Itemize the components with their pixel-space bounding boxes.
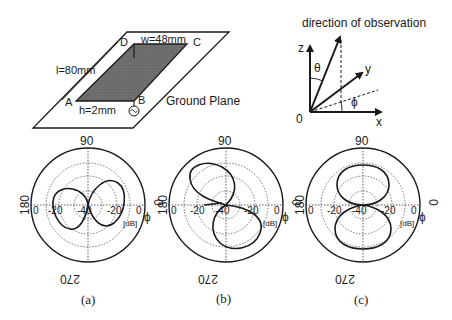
angle-label-180: 180 xyxy=(156,195,170,215)
phi-label: ϕ xyxy=(282,210,289,224)
projection-line-horizontal xyxy=(310,90,378,112)
theta-arc xyxy=(310,78,323,81)
tick-label-minus20-right: -20 xyxy=(244,205,259,216)
tick-label-0-left: 0 xyxy=(33,205,39,216)
figure-canvas: D C A B w=48mm l=80mm h=2mm Ground Plane… xyxy=(0,0,452,320)
tick-label-minus40: -40 xyxy=(352,205,367,216)
tick-label-0-right: 0 xyxy=(274,205,280,216)
angle-label-270: 270 xyxy=(335,272,355,286)
tick-label-minus40: -40 xyxy=(77,205,92,216)
tick-label-minus20-right: -20 xyxy=(381,205,396,216)
polar-plot-a: 90 270 180 0 -20 -40 -20 0 [dB] 0 ϕ xyxy=(18,134,165,286)
observation-title: direction of observation xyxy=(302,16,426,30)
x-axis-label: x xyxy=(376,115,382,129)
corner-label-a: A xyxy=(65,96,73,108)
phi-label: ϕ xyxy=(144,210,151,224)
width-label: w=48mm xyxy=(140,33,186,45)
origin-label: 0 xyxy=(296,112,303,126)
theta-label: θ xyxy=(314,61,321,75)
tick-label-minus40: -40 xyxy=(215,205,230,216)
tick-label-0-left: 0 xyxy=(171,205,177,216)
polar-plot-c: 90 270 180 0 -20 -40 -20 0 [dB] 0 ϕ xyxy=(293,134,440,286)
tick-label-0-right: 0 xyxy=(136,205,142,216)
corner-label-b: B xyxy=(138,94,145,106)
tick-label-minus20-left: -20 xyxy=(190,205,205,216)
y-axis-label: y xyxy=(365,62,371,76)
angle-label-90: 90 xyxy=(218,134,232,148)
height-label: h=2mm xyxy=(79,104,116,116)
tick-label-0-left: 0 xyxy=(308,205,314,216)
coordinate-diagram: direction of observation z x y 0 θ ϕ xyxy=(296,16,426,129)
z-axis-label: z xyxy=(298,41,304,55)
caption-a: (a) xyxy=(81,292,95,307)
angle-label-180: 180 xyxy=(293,195,307,215)
unit-label: [dB] xyxy=(400,219,414,228)
tick-label-minus20-left: -20 xyxy=(48,205,63,216)
unit-label: [dB] xyxy=(263,219,277,228)
phi-label: ϕ xyxy=(351,95,358,109)
angle-label-0: 0 xyxy=(426,199,440,206)
angle-label-270: 270 xyxy=(60,272,80,286)
tick-label-0-right: 0 xyxy=(411,205,417,216)
unit-label: [dB] xyxy=(123,219,137,228)
phi-arc xyxy=(341,102,342,112)
tick-label-minus20-left: -20 xyxy=(327,205,342,216)
length-label: l=80mm xyxy=(56,64,95,76)
corner-label-d: D xyxy=(120,36,128,48)
corner-label-c: C xyxy=(193,36,201,48)
polar-plot-b: 90 270 180 0 -20 -40 -20 0 [dB] 0 ϕ xyxy=(156,134,303,286)
angle-label-90: 90 xyxy=(80,134,94,148)
angle-label-270: 270 xyxy=(198,272,218,286)
tick-label-minus20-right: -20 xyxy=(107,205,122,216)
angle-label-90: 90 xyxy=(355,134,369,148)
angle-label-180: 180 xyxy=(18,195,32,215)
antenna-diagram: D C A B w=48mm l=80mm h=2mm Ground Plane xyxy=(33,32,240,128)
ground-plane-label: Ground Plane xyxy=(166,94,240,108)
phi-label: ϕ xyxy=(419,210,426,224)
ac-source-icon xyxy=(129,106,139,116)
caption-c: (c) xyxy=(354,292,368,307)
caption-b: (b) xyxy=(216,291,231,306)
